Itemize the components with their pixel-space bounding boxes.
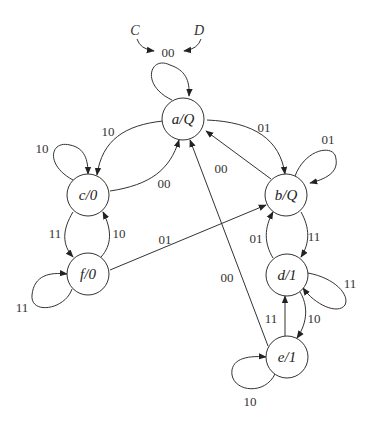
edge-a-a (151, 63, 189, 100)
edge-label-c-c: 10 (36, 141, 49, 156)
edge-d-e (297, 292, 306, 338)
edge-label-e-d: 11 (265, 311, 278, 326)
edge-label-d-b: 01 (250, 231, 263, 246)
edge-label-e-a: 00 (221, 270, 234, 285)
edge-f-b (110, 205, 266, 270)
edge-label-e-e: 10 (244, 394, 257, 409)
edge-label-b-d: 11 (308, 229, 321, 244)
edge-label-a-c: 10 (102, 124, 115, 139)
start-arrow-d (184, 39, 201, 51)
start-label: 00 (162, 45, 175, 60)
state-c: c/0 (67, 174, 109, 216)
state-f-label: f/0 (80, 266, 96, 282)
edge-b-d (301, 212, 308, 257)
edge-b-b (295, 150, 336, 183)
edge-label-f-c: 10 (113, 226, 126, 241)
start-indicator: C D 00 (130, 23, 204, 60)
state-e: e/1 (266, 336, 308, 378)
edge-d-b (266, 212, 273, 258)
state-c-label: c/0 (79, 187, 98, 203)
state-d: d/1 (266, 254, 308, 296)
start-input-c: C (130, 23, 140, 38)
start-arrow-c (137, 39, 154, 51)
edge-label-f-f: 11 (16, 300, 29, 315)
state-f: f/0 (67, 253, 109, 295)
edge-label-d-e: 10 (308, 311, 321, 326)
state-a: a/Q (162, 98, 204, 140)
state-b: b/Q (265, 174, 307, 216)
edge-label-d-d: 11 (344, 276, 357, 291)
state-a-label: a/Q (172, 111, 195, 127)
state-b-label: b/Q (275, 187, 298, 203)
edge-label-b-b: 01 (322, 132, 335, 147)
state-d-label: d/1 (277, 267, 296, 283)
edge-label-f-b: 01 (159, 232, 172, 247)
edge-d-d (303, 273, 346, 309)
edge-label-c-a: 00 (158, 176, 171, 191)
start-input-d: D (193, 23, 204, 38)
edge-c-f (65, 212, 73, 257)
edge-f-c (101, 212, 110, 257)
state-diagram: C D 00 10 01 10 00 01 00 11 10 11 (0, 0, 377, 428)
edge-label-b-a: 00 (215, 161, 228, 176)
state-e-label: e/1 (278, 349, 296, 365)
edge-f-f (32, 273, 72, 307)
edge-label-c-f: 11 (49, 226, 62, 241)
edge-label-a-b: 01 (258, 120, 271, 135)
